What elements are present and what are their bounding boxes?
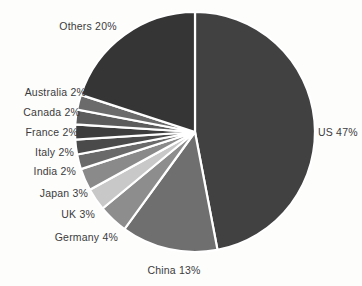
slice-label-us: US 47% [318, 126, 358, 138]
pie-slice-us [195, 12, 315, 250]
slice-label-australia: Australia 2% [0, 86, 86, 98]
slice-label-china: China 13% [124, 264, 224, 276]
slice-label-france: France 2% [0, 126, 78, 138]
slice-label-germany: Germany 4% [0, 231, 118, 243]
pie-slices-group [75, 12, 315, 252]
pie-chart-canvas [0, 0, 362, 286]
slice-label-uk: UK 3% [0, 208, 95, 220]
slice-label-others: Others 20% [38, 20, 138, 32]
slice-label-japan: Japan 3% [0, 187, 88, 199]
pie-chart: US 47% China 13% Germany 4% UK 3% Japan … [0, 0, 362, 286]
slice-label-italy: Italy 2% [0, 146, 74, 158]
slice-label-canada: Canada 2% [0, 106, 80, 118]
slice-label-india: India 2% [0, 165, 76, 177]
